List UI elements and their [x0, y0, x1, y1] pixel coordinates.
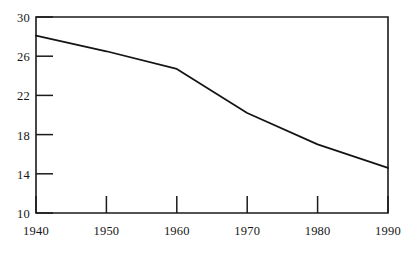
x-axis-tick-labels: 1940 1950 1960 1970 1980 1990	[23, 224, 401, 238]
x-axis-label-1940: 1940	[23, 224, 49, 238]
plot-frame	[36, 17, 388, 213]
x-axis-ticks	[36, 196, 388, 213]
x-axis-label-1950: 1950	[93, 224, 119, 238]
y-axis-label-10: 10	[17, 207, 30, 221]
data-series-group	[36, 36, 388, 168]
x-axis-label-1960: 1960	[164, 224, 190, 238]
y-axis-label-26: 26	[17, 50, 30, 64]
x-axis-label-1970: 1970	[234, 224, 260, 238]
chart-canvas: 30 26 22 18 14 10 1940 1950 1960 1970 19…	[0, 0, 415, 253]
y-axis-label-30: 30	[17, 11, 30, 25]
plot-frame-border	[36, 17, 388, 213]
y-axis-ticks	[36, 17, 53, 213]
line-chart-figure: 30 26 22 18 14 10 1940 1950 1960 1970 19…	[0, 0, 415, 253]
x-axis-label-1990: 1990	[375, 224, 401, 238]
y-axis-tick-labels: 30 26 22 18 14 10	[17, 11, 30, 221]
y-axis-label-18: 18	[17, 129, 30, 143]
x-axis-label-1980: 1980	[305, 224, 331, 238]
y-axis-label-22: 22	[17, 89, 30, 103]
y-axis-label-14: 14	[17, 168, 30, 182]
data-series-line	[36, 36, 388, 168]
